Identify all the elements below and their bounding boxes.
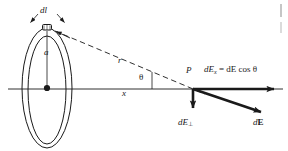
- vector-dE-arrow: [193, 89, 261, 112]
- dEperp-base: dE: [178, 117, 188, 127]
- ring-center-dot: [44, 85, 50, 91]
- dl-charge-element: [43, 25, 52, 31]
- equation-lhs: dE: [204, 64, 214, 74]
- label-dE-perpendicular: dE⊥: [178, 118, 193, 128]
- r-dashed-line: [55, 31, 205, 94]
- diagram-canvas: [0, 0, 288, 151]
- label-point-p: P: [186, 66, 192, 75]
- label-dE-resultant: dE: [253, 118, 264, 127]
- label-angle-theta: θ: [139, 73, 143, 82]
- label-dl: dl: [40, 6, 47, 15]
- dl-pointer-arrows: [31, 14, 65, 23]
- label-axis-distance-x: x: [122, 89, 126, 98]
- label-equation-dEx: dEx = dE cos θ: [204, 65, 257, 75]
- equation-rhs: = dE cos θ: [219, 64, 257, 74]
- label-distance-r: r: [118, 56, 122, 65]
- dEperp-subscript: ⊥: [188, 120, 193, 127]
- dE-vector-symbol: E: [258, 117, 264, 127]
- equation-lhs-subscript: x: [214, 69, 217, 75]
- label-radius-a: a: [44, 48, 49, 57]
- ring-electric-field-figure: dl a r θ x P dEx = dE cos θ dE⊥ dE: [0, 0, 288, 151]
